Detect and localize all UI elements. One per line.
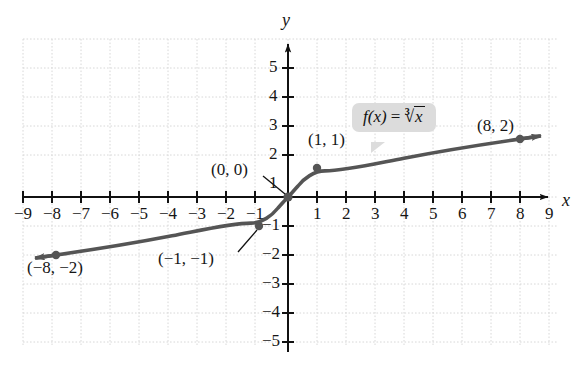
graph-canvas bbox=[0, 0, 588, 371]
function-equals: = bbox=[391, 107, 401, 126]
callout-tail bbox=[371, 142, 385, 153]
point-dot-8-2 bbox=[516, 135, 524, 143]
x-tick-label-neg8: −8 bbox=[43, 204, 61, 224]
y-tick-label-2: 2 bbox=[269, 144, 278, 164]
function-label-callout: f(x) = 3√x bbox=[352, 103, 436, 132]
x-tick-label-6: 6 bbox=[458, 204, 467, 224]
x-tick-label-4: 4 bbox=[400, 204, 409, 224]
x-tick-label-neg7: −7 bbox=[72, 204, 90, 224]
y-tick-label-neg4: −4 bbox=[262, 302, 280, 322]
point-dot-1-1 bbox=[313, 164, 321, 172]
grid-lines bbox=[23, 39, 557, 345]
x-tick-label-1: 1 bbox=[313, 204, 322, 224]
point-label-neg8-neg2: (−8, −2) bbox=[27, 258, 83, 278]
x-tick-label-neg6: −6 bbox=[101, 204, 119, 224]
point-label-1-1: (1, 1) bbox=[308, 130, 345, 150]
function-lhs: f(x) bbox=[363, 107, 387, 126]
y-tick-label-neg2: −2 bbox=[262, 244, 280, 264]
x-tick-label-neg4: −4 bbox=[159, 204, 177, 224]
y-tick-label-5: 5 bbox=[269, 57, 278, 77]
x-tick-label-3: 3 bbox=[371, 204, 380, 224]
point-label-origin: (0, 0) bbox=[211, 160, 248, 180]
x-tick-label-9: 9 bbox=[545, 204, 554, 224]
radicand: x bbox=[414, 106, 425, 126]
x-tick-label-8: 8 bbox=[516, 204, 525, 224]
radical-sign: √ bbox=[405, 107, 414, 126]
y-axis-name: y bbox=[282, 10, 290, 31]
x-axis-name: x bbox=[562, 190, 570, 211]
x-tick-label-5: 5 bbox=[429, 204, 438, 224]
y-tick-label-3: 3 bbox=[269, 115, 278, 135]
x-tick-label-neg3: −3 bbox=[188, 204, 206, 224]
y-tick-label-neg5: −5 bbox=[262, 331, 280, 351]
y-tick-label-4: 4 bbox=[269, 86, 278, 106]
point-label-neg1-neg1: (−1, −1) bbox=[158, 249, 214, 269]
point-label-8-2: (8, 2) bbox=[477, 116, 514, 136]
y-tick-label-neg3: −3 bbox=[262, 273, 280, 293]
x-tick-label-neg9: −9 bbox=[14, 204, 32, 224]
x-tick-label-2: 2 bbox=[342, 204, 351, 224]
cube-root-function-graph: f(x) = 3√x −9 −8 −7 −6 −5 −4 −3 −2 −1 1 … bbox=[0, 0, 588, 371]
y-tick-label-neg1: −1 bbox=[262, 215, 280, 235]
x-tick-label-neg5: −5 bbox=[130, 204, 148, 224]
leader-neg1 bbox=[238, 230, 257, 252]
x-tick-label-7: 7 bbox=[487, 204, 496, 224]
x-tick-label-neg2: −2 bbox=[217, 204, 235, 224]
y-tick-label-1: 1 bbox=[269, 173, 278, 193]
